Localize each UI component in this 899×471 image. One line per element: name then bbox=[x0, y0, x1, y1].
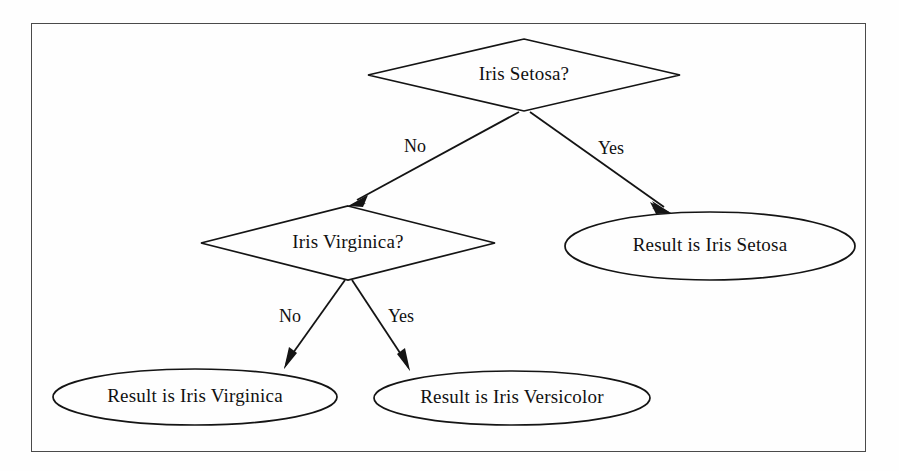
edge-second-no: No bbox=[279, 280, 345, 369]
arrowhead-fill bbox=[348, 195, 368, 207]
edge-root-no: No bbox=[348, 112, 519, 207]
node-label-result-versicolor: Result is Iris Versicolor bbox=[420, 386, 604, 407]
node-result-versicolor[interactable]: Result is Iris Versicolor bbox=[374, 371, 650, 425]
decision-tree-diagram: No Yes No Yes Iris Setosa? I bbox=[0, 0, 899, 471]
node-result-setosa[interactable]: Result is Iris Setosa bbox=[565, 212, 855, 280]
edge-second-yes: Yes bbox=[352, 280, 414, 371]
node-root-decision[interactable]: Iris Setosa? bbox=[368, 39, 680, 111]
node-label-result-virginica: Result is Iris Virginica bbox=[107, 385, 283, 406]
node-label-root-decision: Iris Setosa? bbox=[479, 63, 570, 84]
edge-label-second-no: No bbox=[279, 306, 301, 326]
edge-label-second-yes: Yes bbox=[388, 306, 414, 326]
node-label-result-setosa: Result is Iris Setosa bbox=[633, 234, 788, 255]
node-second-decision[interactable]: Iris Virginica? bbox=[201, 206, 495, 280]
edge-root-yes: Yes bbox=[530, 112, 671, 214]
node-label-second-decision: Iris Virginica? bbox=[292, 231, 403, 252]
figure-page: No Yes No Yes Iris Setosa? I bbox=[0, 0, 899, 471]
node-result-virginica[interactable]: Result is Iris Virginica bbox=[53, 369, 337, 425]
edge-label-root-no: No bbox=[404, 136, 426, 156]
edge-label-root-yes: Yes bbox=[598, 138, 624, 158]
